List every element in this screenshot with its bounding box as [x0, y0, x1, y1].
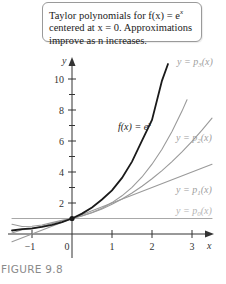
x-tick-label: 3: [190, 241, 195, 252]
y-axis-label: y: [61, 55, 67, 66]
x-axis-arrow-icon: [205, 231, 214, 238]
y-tick-label: 6: [59, 136, 64, 147]
curve-labels: f(x) = ex y = p3(x) y = p2(x) y = p1(x) …: [118, 56, 213, 218]
label-p2: y = p2(x): [175, 132, 212, 145]
x-tick-labels: −1 0 1 2 3: [25, 241, 195, 252]
axes: [8, 64, 208, 258]
y-tick-label: 10: [54, 74, 64, 85]
y-tick-label: 8: [59, 105, 64, 116]
y-tick-label: 2: [59, 198, 64, 209]
taylor-plot: 2 4 6 8 10 −1 0 1 2 3 x y f(x) = ex y = …: [0, 0, 226, 284]
y-tick-labels: 2 4 6 8 10: [54, 74, 64, 209]
label-p3: y = p3(x): [176, 56, 213, 69]
x-tick-label: 2: [150, 241, 155, 252]
y-tick-label: 4: [59, 167, 64, 178]
x-tick-label: 0: [65, 241, 70, 252]
x-tick-label: −1: [25, 241, 36, 252]
curve-p3: [12, 100, 187, 233]
figure-caption: FIGURE 9.8: [1, 263, 63, 275]
label-p1: y = p1(x): [175, 184, 212, 197]
y-axis-arrow-icon: [69, 57, 76, 66]
curve-exp: [12, 64, 168, 231]
x-tick-label: 1: [110, 241, 115, 252]
x-axis-label: x: [206, 240, 212, 251]
label-p0: y = p0(x): [175, 205, 212, 218]
center-point: [69, 216, 74, 221]
label-exp: f(x) = ex: [118, 120, 152, 133]
